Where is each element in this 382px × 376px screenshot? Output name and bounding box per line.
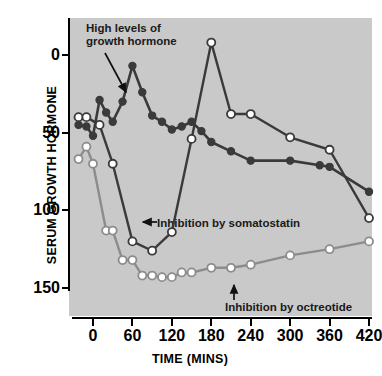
x-tick-360: [329, 319, 331, 326]
y-tick-0: [62, 287, 69, 289]
annotation-inhibition-somatostatin: Inhibition by somatostatin: [157, 217, 300, 230]
plot-area: [69, 18, 372, 316]
y-tick-150: [62, 54, 69, 56]
x-tick-label-0: 0: [89, 328, 98, 344]
x-tick-60: [131, 319, 133, 326]
x-tick-label-120: 120: [158, 328, 185, 344]
annotation-high-growth-hormone: High levels of growth hormone: [86, 22, 177, 48]
x-tick-300: [289, 319, 291, 326]
y-axis-line: [68, 18, 70, 291]
x-tick-0: [92, 319, 94, 326]
x-tick-label-420: 420: [356, 328, 382, 344]
x-tick-label-60: 60: [124, 328, 142, 344]
annotation-inhibition-octreotide: Inhibition by octreotide: [225, 301, 352, 314]
x-tick-label-300: 300: [277, 328, 304, 344]
x-tick-label-180: 180: [198, 328, 225, 344]
y-tick-50: [62, 209, 69, 211]
x-tick-240: [250, 319, 252, 326]
y-tick-100: [62, 132, 69, 134]
y-axis-title: SERUM GROWTH HORMONE: [45, 60, 59, 290]
x-tick-180: [210, 319, 212, 326]
x-tick-label-240: 240: [237, 328, 264, 344]
x-tick-label-360: 360: [316, 328, 343, 344]
x-axis-title: TIME (MINS): [0, 352, 380, 366]
x-tick-120: [171, 319, 173, 326]
x-axis-line: [72, 317, 372, 319]
x-tick-420: [368, 319, 370, 326]
